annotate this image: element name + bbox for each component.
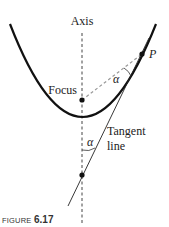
figure-caption-number: 6.17: [34, 214, 54, 225]
parabola-curve: [10, 24, 156, 117]
angle-top-label: α: [113, 72, 120, 86]
angle-arc-top: [124, 68, 131, 76]
focus-label: Focus: [48, 83, 77, 97]
focal-radius-line: [82, 54, 142, 100]
point-p-label: P: [148, 47, 157, 61]
tangent-line: [68, 38, 149, 206]
parabola-diagram: Axis Focus P α α Tangent line FIGURE 6.1…: [0, 0, 169, 227]
point-p: [139, 51, 144, 56]
tangent-axis-intersection-point: [79, 172, 84, 177]
axis-label: Axis: [71, 14, 94, 28]
tangent-line-label-1: Tangent: [107, 124, 146, 138]
tangent-line-label-2: line: [107, 139, 125, 153]
angle-bottom-label: α: [87, 135, 94, 149]
figure-caption-prefix: FIGURE: [2, 216, 32, 225]
focus-point: [79, 97, 84, 102]
